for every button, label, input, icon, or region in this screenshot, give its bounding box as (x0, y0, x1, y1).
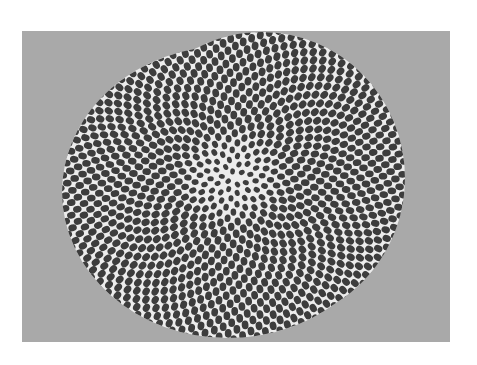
seed-spiral-artwork (0, 0, 477, 365)
